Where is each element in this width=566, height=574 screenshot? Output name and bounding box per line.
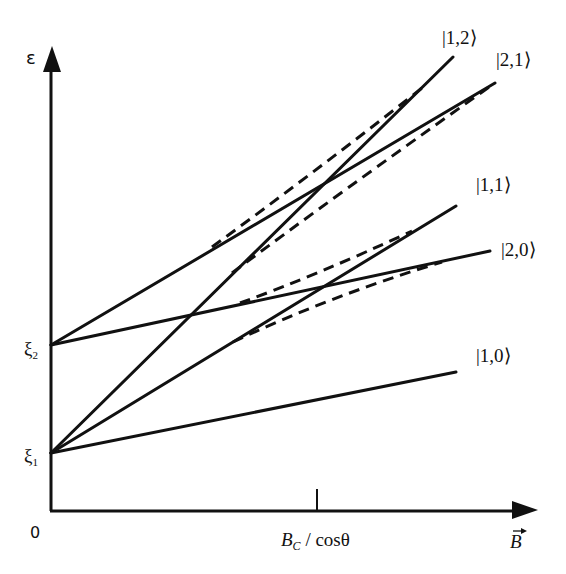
level-2-0 <box>51 251 490 345</box>
state-label-2-0: |2,0⟩ <box>501 239 536 260</box>
level-1-0 <box>51 372 456 453</box>
state-label-1-1: |1,1⟩ <box>476 174 511 195</box>
y-tick-xi2: ξ2 <box>24 338 38 361</box>
x-axis-arrow-icon <box>512 501 538 519</box>
state-label-1-0: |1,0⟩ <box>476 345 511 366</box>
upper-pair-lower-branch <box>232 85 492 273</box>
energy-levels <box>51 57 495 453</box>
level-1-1 <box>51 206 456 453</box>
lower-pair-lower-branch <box>233 262 442 342</box>
y-axis-label: ε <box>26 47 36 68</box>
level-2-1 <box>51 83 495 345</box>
energy-level-diagram: ε 0 ξ2 ξ1 BC / cosθ B |1,2⟩ |2,1⟩ |1,1⟩ … <box>0 0 566 574</box>
state-label-2-1: |2,1⟩ <box>496 49 531 70</box>
state-label-1-2: |1,2⟩ <box>442 27 477 48</box>
avoided-crossing-curves <box>212 85 492 342</box>
x-tick-label: BC / cosθ <box>281 529 350 553</box>
origin-label: 0 <box>30 523 40 542</box>
y-tick-xi1: ξ1 <box>24 445 38 468</box>
x-axis-label: B <box>510 531 522 552</box>
y-axis-arrow-icon <box>43 46 61 72</box>
level-1-2 <box>51 57 453 453</box>
upper-pair-upper-branch <box>212 88 422 247</box>
